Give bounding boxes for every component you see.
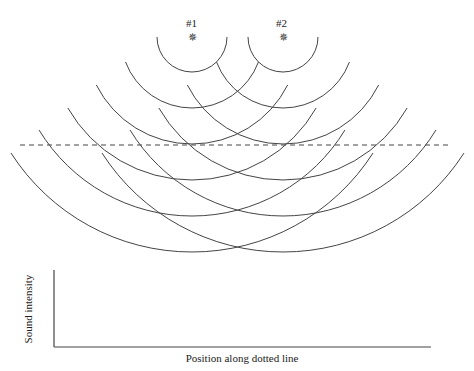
star-icon: ✵ — [279, 31, 288, 43]
wavefront-arc — [217, 62, 350, 108]
source-1-label: #1 — [186, 17, 197, 29]
wavefront-arc — [126, 62, 259, 108]
star-icon: ✵ — [188, 31, 197, 43]
wave-diagram: ✵✵ — [0, 0, 474, 371]
wavefront-arc — [11, 153, 373, 252]
x-axis-label: Position along dotted line — [0, 352, 474, 364]
source-2-label: #2 — [276, 17, 287, 29]
wavefront-arc — [102, 153, 464, 252]
y-axis-label: Sound intensity — [22, 269, 34, 349]
